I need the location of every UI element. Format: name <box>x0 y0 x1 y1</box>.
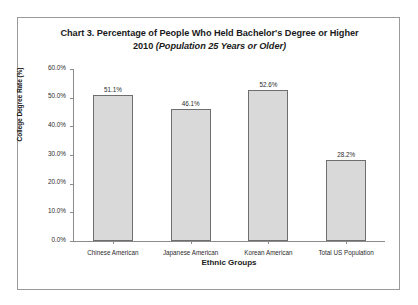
x-axis-tick-label: Total US Population <box>318 249 373 256</box>
y-axis-tick-mark <box>70 212 73 213</box>
bar <box>93 95 133 241</box>
chart-frame: Chart 3. Percentage of People Who Held B… <box>17 17 400 290</box>
plot-area: 60.0%50.0%40.0%30.0%20.0%10.0%0.0% 51.1%… <box>73 69 385 241</box>
x-axis-tick-mark <box>268 241 269 244</box>
y-axis-tick-label: 40.0% <box>48 121 66 128</box>
bar-category: 28.2%Total US Population <box>307 69 385 241</box>
y-axis-tick-label: 10.0% <box>48 207 66 214</box>
bar <box>248 90 288 241</box>
bar-category: 46.1%Japanese American <box>152 69 230 241</box>
chart-title-line-2: 2010 (Population 25 Years or Older) <box>18 40 401 53</box>
y-axis-tick-mark <box>70 126 73 127</box>
x-axis-title: Ethnic Groups <box>73 258 385 267</box>
bar-series: 51.1%Chinese American46.1%Japanese Ameri… <box>74 69 385 241</box>
bar-value-label: 46.1% <box>182 100 200 107</box>
bar-value-label: 51.1% <box>104 86 122 93</box>
x-axis-tick-label: Japanese American <box>163 249 218 256</box>
bar <box>326 160 366 241</box>
x-axis-line <box>73 241 385 242</box>
bar-value-label: 52.6% <box>259 81 277 88</box>
y-axis-tick-mark <box>70 69 73 70</box>
y-axis-tick-mark <box>70 241 73 242</box>
x-axis-tick-label: Chinese American <box>87 249 138 256</box>
x-axis-tick-mark <box>191 241 192 244</box>
y-axis-tick-label: 60.0% <box>48 64 66 71</box>
bar-category: 52.6%Korean American <box>230 69 308 241</box>
y-axis-tick-mark <box>70 155 73 156</box>
chart-title-subnote: (Population 25 Years or Older) <box>156 41 286 51</box>
bar <box>171 109 211 241</box>
y-axis-tick-label: 30.0% <box>48 150 66 157</box>
bar-value-label: 28.2% <box>337 151 355 158</box>
x-axis-tick-mark <box>346 241 347 244</box>
y-axis-tick-mark <box>70 184 73 185</box>
y-axis-tick-label: 20.0% <box>48 178 66 185</box>
y-axis-tick-label: 50.0% <box>48 92 66 99</box>
y-axis-tick-label: 0.0% <box>51 236 66 243</box>
x-axis-tick-mark <box>113 241 114 244</box>
chart-title-line-1: Chart 3. Percentage of People Who Held B… <box>18 27 401 40</box>
chart-title: Chart 3. Percentage of People Who Held B… <box>18 27 401 53</box>
bar-category: 51.1%Chinese American <box>74 69 152 241</box>
y-axis-title: College Degree Rate (%) <box>14 18 26 190</box>
y-axis-tick-mark <box>70 98 73 99</box>
x-axis-tick-label: Korean American <box>244 249 292 256</box>
chart-title-year: 2010 <box>133 41 156 51</box>
